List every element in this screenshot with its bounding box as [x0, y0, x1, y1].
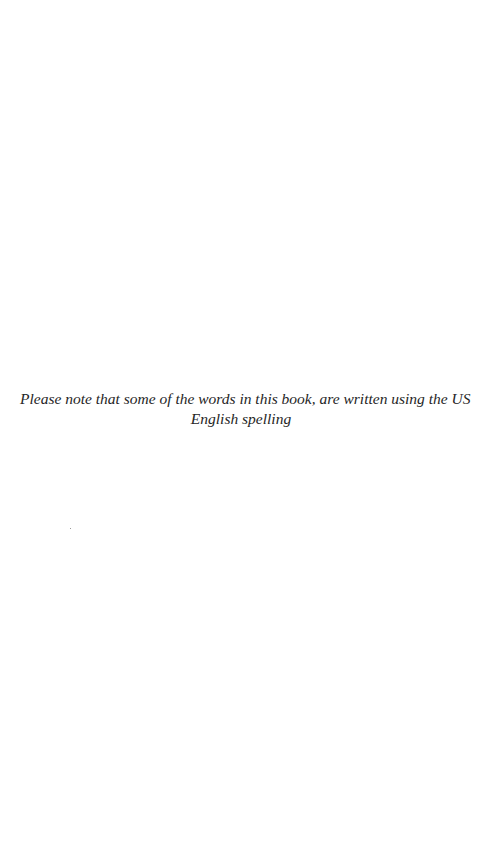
book-page: Please note that some of the words in th… — [0, 0, 482, 862]
scan-speck — [70, 528, 71, 529]
spelling-note-line-1: Please note that some of the words in th… — [20, 389, 462, 409]
spelling-note: Please note that some of the words in th… — [20, 389, 462, 429]
spelling-note-line-2: English spelling — [20, 409, 462, 429]
